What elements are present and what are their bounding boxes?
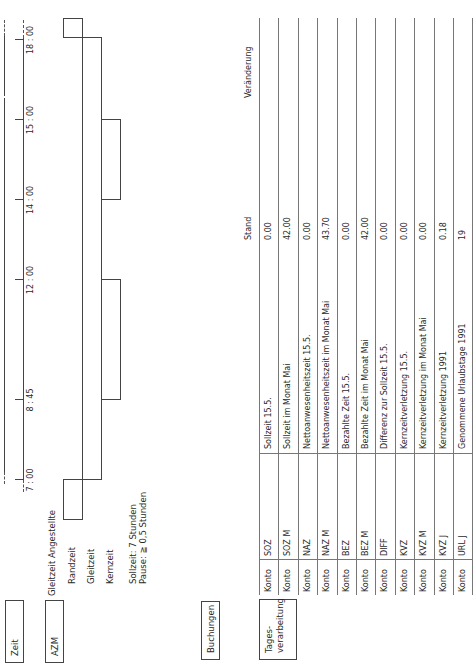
- column-divider-code-description: [259, 453, 472, 454]
- cell-code: SOZ M: [278, 530, 297, 556]
- tick-label-8-45: 8 : 45: [26, 388, 35, 411]
- row-divider: [453, 18, 454, 595]
- tick-15-00: [15, 119, 23, 120]
- cell-code: NAZ: [298, 539, 317, 556]
- cell-type: Konto: [278, 569, 297, 592]
- row-divider: [298, 18, 299, 595]
- row-divider: [356, 18, 357, 595]
- cell-type: Konto: [453, 569, 472, 592]
- cell-type: Konto: [434, 569, 453, 592]
- timeline-axis-dash-right: [23, 20, 24, 38]
- table-header-stand: Stand: [244, 217, 253, 240]
- row-divider: [375, 18, 376, 595]
- cell-description: Kernzeitverletzung 1991: [434, 351, 453, 449]
- tick-label-18-00: 18 : 00: [26, 26, 35, 54]
- zeit-label: Zeit: [10, 639, 20, 656]
- column-divider-type-code: [259, 559, 472, 560]
- tick-18-00: [15, 39, 23, 40]
- cell-description: Nettoanwesenheitszeit im Monat Mai: [317, 301, 336, 449]
- cell-code: SOZ: [259, 539, 278, 556]
- timeline-upper-line-b: [4, 36, 5, 96]
- cell-description: Nettoanwesenheitszeit 15.5.: [298, 334, 317, 449]
- cell-stand: 0.18: [434, 222, 453, 240]
- tick-label-7-00: 7 : 00: [26, 468, 35, 491]
- tick-12-00: [15, 279, 23, 280]
- cell-code: URL J: [453, 535, 472, 556]
- buchungen-label-box: Buchungen: [201, 601, 220, 660]
- cell-description: Sollzeit im Monat Mai: [278, 364, 297, 449]
- randzeit-block-evening: [63, 18, 83, 38]
- cell-code: NAZ M: [317, 530, 336, 556]
- cell-description: Kernzeitverletzung 15.5.: [395, 351, 414, 449]
- cell-stand: 43.70: [317, 217, 336, 240]
- tick-14-00: [15, 199, 23, 200]
- cell-description: Kernzeitverletzung im Monat Mai: [414, 317, 433, 449]
- azm-row-kernzeit: Kernzeit: [105, 550, 115, 585]
- cell-type: Konto: [259, 569, 278, 592]
- cell-stand: 0.00: [414, 222, 433, 240]
- cell-type: Konto: [395, 569, 414, 592]
- cell-stand: 0.00: [395, 222, 414, 240]
- cell-stand: 19: [453, 230, 472, 240]
- tick-8-45: [15, 399, 23, 400]
- cell-type: Konto: [375, 569, 394, 592]
- tick-label-14-00: 14 : 00: [26, 186, 35, 214]
- cell-description: Genommene Urlaubstage 1991: [453, 323, 472, 449]
- cell-code: DIFF: [375, 538, 394, 556]
- row-divider: [414, 18, 415, 595]
- azm-label-box: AZM: [45, 600, 64, 663]
- timeline-axis-line: [23, 38, 24, 480]
- cell-description: Bezahlte Zeit 15.5.: [337, 373, 356, 449]
- cell-code: KVZ J: [434, 535, 453, 556]
- cell-stand: 0.00: [298, 222, 317, 240]
- timeline-upper-line-a: [4, 98, 5, 472]
- kernzeit-block-afternoon: [101, 119, 121, 200]
- row-divider: [337, 18, 338, 595]
- cell-stand: 42.00: [356, 217, 375, 240]
- azm-note-sollzeit: Sollzeit: 7 Stunden: [128, 504, 138, 584]
- cell-type: Konto: [356, 569, 375, 592]
- cell-description: Bezahlte Zeit im Monat Mai: [356, 339, 375, 449]
- azm-row-randzeit: Randzeit: [67, 547, 77, 584]
- cell-stand: 0.00: [337, 222, 356, 240]
- randzeit-block-morning: [63, 479, 83, 520]
- azm-label: AZM: [50, 637, 60, 656]
- row-divider: [259, 18, 260, 595]
- cell-description: Sollzeit 15.5.: [259, 397, 278, 449]
- cell-type: Konto: [298, 569, 317, 592]
- azm-note-pause: Pause: ≧ 0,5 Stunden: [138, 492, 148, 584]
- cell-stand: 0.00: [375, 222, 394, 240]
- cell-code: BEZ: [337, 540, 356, 556]
- row-divider: [472, 18, 473, 595]
- cell-code: BEZ M: [356, 531, 375, 556]
- cell-stand: 0.00: [259, 222, 278, 240]
- timeline-upper-dash-left: [4, 472, 5, 484]
- cell-type: Konto: [337, 569, 356, 592]
- tick-label-12-00: 12 : 00: [26, 266, 35, 294]
- timeline-upper-dash-right: [4, 20, 5, 36]
- cell-code: KVZ M: [414, 530, 433, 556]
- row-divider: [278, 18, 279, 595]
- tick-label-15-00: 15 : 00: [26, 106, 35, 134]
- row-divider: [434, 18, 435, 595]
- cell-description: Differenz zur Sollzeit 15.5.: [375, 343, 394, 449]
- cell-stand: 42.00: [278, 217, 297, 240]
- cell-code: KVZ: [395, 540, 414, 556]
- gleitzeit-block: [82, 37, 102, 480]
- azm-title: Gleitzeit Angestellte: [47, 510, 57, 596]
- buchungen-label: Buchungen: [206, 605, 216, 653]
- tick-7-00: [15, 479, 23, 480]
- rotated-page: Zeit AZM Buchungen Tages- verarbeitung 7…: [0, 0, 475, 664]
- timeline-axis-dash-left: [23, 480, 24, 492]
- zeit-label-box: Zeit: [5, 600, 24, 663]
- row-divider: [395, 18, 396, 595]
- tagesverarbeitung-label-line2: verarbeitung: [275, 600, 286, 653]
- kernzeit-block-morning: [101, 279, 121, 400]
- tagesverarbeitung-label-box: Tages- verarbeitung: [259, 599, 297, 660]
- tagesverarbeitung-label-line1: Tages-: [264, 600, 275, 653]
- cell-type: Konto: [317, 569, 336, 592]
- table-header-veraenderung: Veränderung: [244, 46, 253, 98]
- azm-row-gleitzeit: Gleitzeit: [86, 549, 96, 584]
- cell-type: Konto: [414, 569, 433, 592]
